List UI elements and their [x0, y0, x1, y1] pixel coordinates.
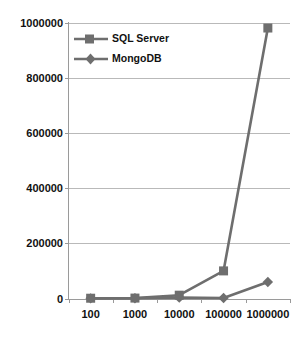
legend-label-sql-server: SQL Server: [112, 32, 169, 44]
y-axis-tick-label: 200000: [26, 237, 63, 249]
legend-square-marker-icon: [85, 35, 94, 44]
y-axis-tick-label: 0: [57, 293, 63, 305]
y-axis-tick-label: 1000000: [20, 17, 63, 29]
x-axis-tick-label: 1000000: [246, 308, 289, 320]
x-axis-tick-label: 100000: [205, 308, 242, 320]
data-point-square-marker: [263, 24, 272, 33]
x-axis-tick-label: 10000: [164, 308, 195, 320]
y-axis-tick-label: 800000: [26, 72, 63, 84]
legend-label-mongodb: MongoDB: [112, 52, 162, 64]
chart-container: 02000004000006000008000001000000 1001000…: [0, 0, 305, 341]
data-point-square-marker: [219, 266, 228, 275]
chart-background: [0, 0, 305, 341]
x-axis-tick-label: 100: [81, 308, 99, 320]
y-axis-tick-label: 600000: [26, 127, 63, 139]
y-axis-tick-label: 400000: [26, 182, 63, 194]
x-axis-tick-label: 1000: [123, 308, 147, 320]
line-chart: 02000004000006000008000001000000 1001000…: [0, 0, 305, 341]
